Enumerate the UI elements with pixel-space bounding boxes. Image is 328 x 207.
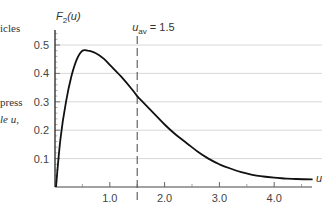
x-tick-label: 4.0 <box>267 192 282 204</box>
x-axis-title: u <box>316 172 322 184</box>
y-tick-label: 0.5 <box>34 39 49 51</box>
distribution-chart: 0.10.20.30.40.5 1.02.03.04.0 uav = 1.5 F… <box>0 0 328 207</box>
average-speed-label: uav = 1.5 <box>132 21 174 36</box>
y-tick-label: 0.1 <box>34 153 49 165</box>
x-tick-label: 1.0 <box>102 192 117 204</box>
x-tick-label: 2.0 <box>157 192 172 204</box>
y-tick-label: 0.3 <box>34 96 49 108</box>
x-axis: 1.02.03.04.0 <box>55 182 312 204</box>
x-tick-label: 3.0 <box>212 192 227 204</box>
y-axis-title: F2(u) <box>56 10 81 25</box>
y-axis: 0.10.20.30.40.5 <box>34 30 60 187</box>
y-tick-label: 0.4 <box>34 67 49 79</box>
horizontal-gridlines <box>55 45 322 159</box>
y-tick-label: 0.2 <box>34 124 49 136</box>
distribution-curve <box>56 50 313 187</box>
